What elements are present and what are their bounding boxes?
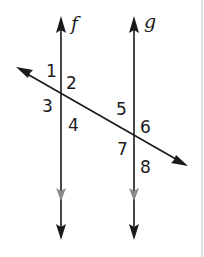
angle-label-7: 7 [117,139,128,159]
line-g [129,16,139,240]
transversal-line [16,67,188,166]
line-f [56,16,66,240]
angle-label-5: 5 [116,99,127,119]
angle-label-6: 6 [140,117,151,137]
angle-label-3: 3 [42,96,53,116]
arrow-lower-right-icon [171,155,188,166]
line-label-f: f [69,12,81,34]
line-label-g: g [144,10,156,32]
angle-label-4: 4 [68,115,79,135]
parallel-lines-diagram: f g 1 2 3 4 5 6 7 8 [0,0,204,257]
angle-label-1: 1 [46,61,57,81]
angle-label-8: 8 [140,157,151,177]
angle-label-2: 2 [66,73,77,93]
diagram-canvas: f g 1 2 3 4 5 6 7 8 [0,0,204,257]
